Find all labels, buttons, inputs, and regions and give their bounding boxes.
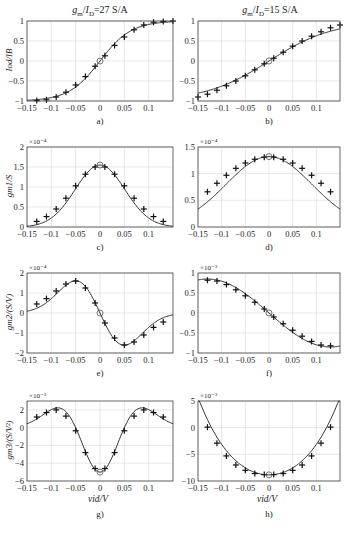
svg-text:−10: −10 [182, 476, 195, 486]
svg-text:0: 0 [191, 423, 195, 433]
plot-h: −0.15−0.1−0.0500.050.1−10−505 [0, 0, 348, 533]
axis-exponent: ×10⁻³ [200, 392, 217, 400]
svg-text:−0.05: −0.05 [235, 483, 255, 493]
svg-text:0.1: 0.1 [311, 483, 322, 493]
svg-text:5: 5 [191, 396, 195, 406]
panel-caption: h) [249, 509, 289, 519]
svg-text:−0.1: −0.1 [214, 483, 229, 493]
x-axis-label: vid/V [257, 494, 277, 504]
svg-text:0: 0 [267, 483, 271, 493]
svg-text:0.05: 0.05 [285, 483, 300, 493]
tick-labels: −0.15−0.1−0.0500.050.1−10−505 [182, 396, 322, 493]
svg-text:−5: −5 [186, 449, 195, 459]
